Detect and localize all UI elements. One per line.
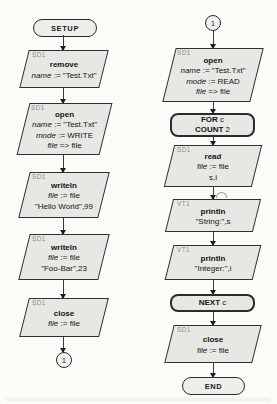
device-tag: SD1 (32, 235, 46, 242)
device-tag: SD1 (32, 299, 46, 306)
device-tag: SD1 (32, 173, 46, 180)
node-close-right: SD1 closefile := file (163, 325, 263, 363)
terminal-setup: SETUP (33, 19, 97, 37)
device-tag: SD1 (32, 51, 46, 58)
device-tag: SD1 (177, 146, 191, 153)
device-tag: VT1 (177, 246, 190, 253)
flow-arrow (213, 232, 214, 245)
node-println-integer: VT1 println"Integer:",i (163, 245, 263, 280)
caption-artifact (6, 398, 271, 401)
node-open-write: SD1 openname := "Test.Txt"mode := WRITEf… (17, 103, 112, 155)
node-text: FOR cCOUNT 2 (195, 115, 230, 136)
flow-arrow (213, 137, 214, 145)
flow-arrow (63, 337, 64, 352)
node-text: NEXT c (199, 298, 227, 309)
flow-arrow (213, 187, 214, 199)
node-text: openname := "Test.Txt"mode := READfile =… (163, 48, 263, 102)
terminal-end: END (182, 377, 245, 395)
node-close-left: SD1 closefile := file (18, 298, 110, 337)
node-println-string: VT1 println"String:",s (163, 199, 263, 232)
flowchart-canvas: SETUP SD1 removename := "Test.Txt" SD1 o… (0, 0, 277, 404)
flow-arrow (63, 88, 64, 103)
flow-arrow (213, 363, 214, 377)
flow-arrow (213, 102, 214, 113)
flow-arrow (63, 35, 64, 50)
flow-arrow (63, 155, 64, 172)
device-tag: VT1 (177, 200, 190, 207)
node-next-loop: NEXT c (170, 294, 255, 312)
connector-1-right: 1 (205, 15, 221, 31)
node-open-read: SD1 openname := "Test.Txt"mode := READfi… (163, 48, 263, 102)
loop-hop-mark (216, 192, 227, 198)
flow-arrow (213, 31, 214, 48)
flow-arrow (213, 280, 214, 294)
flow-arrow (213, 312, 214, 325)
node-writeln-hello: SD1 writelnfile := file"Hello World",99 (18, 172, 110, 218)
node-read: SD1 readfile := files,i (163, 145, 263, 187)
node-for-loop: FOR cCOUNT 2 (170, 113, 255, 137)
device-tag: SD1 (31, 104, 45, 111)
device-tag: SD1 (177, 326, 191, 333)
flow-arrow (63, 218, 64, 234)
node-writeln-foobar: SD1 writelnfile := file"Foo-Bar",23 (18, 234, 110, 280)
device-tag: SD1 (177, 49, 191, 56)
connector-1-left: 1 (56, 352, 72, 368)
flow-arrow (63, 280, 64, 298)
node-remove: SD1 removename := "Test.Txt" (18, 50, 110, 88)
